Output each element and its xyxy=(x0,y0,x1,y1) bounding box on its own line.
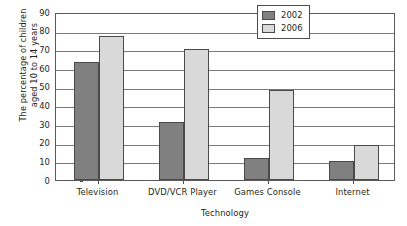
x-tick-mark xyxy=(268,181,269,184)
bars-layer xyxy=(56,14,394,180)
plot-area xyxy=(55,13,395,181)
legend-swatch-icon xyxy=(262,24,275,33)
x-category-label: Games Console xyxy=(225,187,310,197)
bar xyxy=(269,90,294,180)
bar xyxy=(354,145,379,180)
y-tick-label: 30 xyxy=(28,121,50,129)
bar-chart: The percentage of children aged 10 to 14… xyxy=(0,0,407,226)
y-tick-label: 60 xyxy=(28,65,50,73)
y-tick-label: 80 xyxy=(28,27,50,35)
chart-legend: 20022006 xyxy=(257,5,310,39)
y-tick-label: 10 xyxy=(28,158,50,166)
y-tick-label: 0 xyxy=(28,177,50,185)
y-tick-mark xyxy=(80,181,83,182)
x-tick-mark xyxy=(353,181,354,184)
y-axis-title-line-1: The percentage of children xyxy=(18,0,29,150)
legend-label: 2002 xyxy=(281,11,303,19)
y-axis-ticks: 0102030405060708090 xyxy=(28,0,50,226)
y-tick-label: 90 xyxy=(28,9,50,17)
x-tick-mark xyxy=(98,181,99,184)
x-category-label: Television xyxy=(55,187,140,197)
y-tick-label: 40 xyxy=(28,102,50,110)
legend-item: 2002 xyxy=(262,9,303,22)
x-category-label: DVD/VCR Player xyxy=(140,187,225,197)
x-axis-title: Technology xyxy=(55,208,395,218)
bar xyxy=(184,49,209,180)
x-category-label: Internet xyxy=(310,187,395,197)
bar xyxy=(244,158,269,180)
y-tick-label: 70 xyxy=(28,46,50,54)
y-tick-label: 20 xyxy=(28,139,50,147)
bar xyxy=(159,122,184,180)
legend-swatch-icon xyxy=(262,11,275,20)
legend-item: 2006 xyxy=(262,22,303,35)
x-tick-mark xyxy=(183,181,184,184)
bar xyxy=(99,36,124,180)
bar xyxy=(74,62,99,180)
bar xyxy=(329,161,354,180)
y-tick-label: 50 xyxy=(28,83,50,91)
legend-label: 2006 xyxy=(281,24,303,32)
